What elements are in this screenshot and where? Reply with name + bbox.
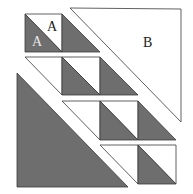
label-a-bottom: A: [32, 34, 43, 49]
row-3: [62, 101, 176, 140]
row-2: [25, 57, 138, 95]
quilt-diagram: A A B: [0, 0, 193, 194]
label-b: B: [143, 35, 152, 50]
label-a-top: A: [47, 19, 58, 34]
